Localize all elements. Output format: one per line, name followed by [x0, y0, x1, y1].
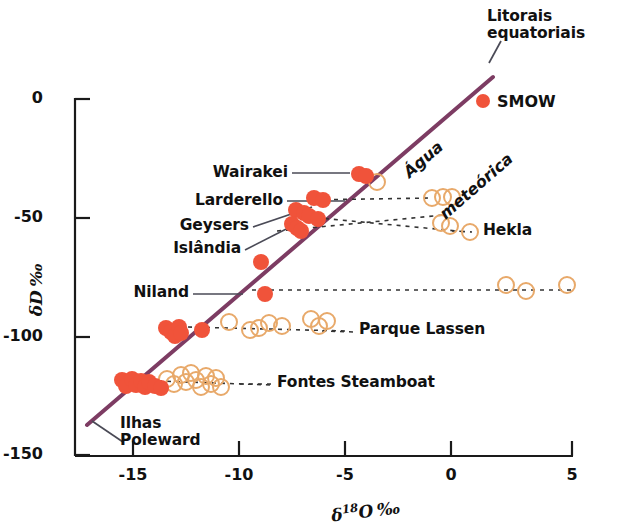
figure-root: 0 -50 -100 -150 -15 -10 -5 0 5 δD ‰ δ18O… [0, 0, 633, 527]
legend-smow-marker [476, 94, 490, 108]
marker-filled [293, 223, 309, 239]
leader-litorais [489, 41, 501, 63]
x-axis-title-isotope: 18 [341, 501, 359, 517]
label-connector-group [240, 231, 472, 384]
marker-filled [358, 168, 374, 184]
marker-filled [315, 192, 331, 208]
marker-open [518, 283, 534, 299]
connector-lassen-label [322, 331, 355, 332]
legend-smow-label: SMOW [497, 92, 556, 111]
y-tick-label-0: 0 [32, 88, 43, 107]
marker-filled [173, 325, 189, 341]
annotation-fontes-steamboat: Fontes Steamboat [277, 374, 435, 391]
x-tick-label-5: 5 [566, 465, 577, 484]
annotation-geysers: Geysers [180, 217, 249, 234]
annotation-agua-line2: meteórica [436, 150, 516, 223]
marker-filled [310, 211, 326, 227]
marker-filled [257, 286, 273, 302]
marker-filled [194, 322, 210, 338]
x-tick-label-0: 0 [445, 465, 456, 484]
annotation-litorais-equatoriais: Litorais equatoriais [487, 8, 585, 43]
leader-ilhas [92, 421, 123, 442]
annotation-parque-lassen: Parque Lassen [359, 321, 485, 338]
annotation-islandia: Islândia [173, 240, 241, 257]
chart-canvas [0, 0, 633, 527]
y-axis-title-delta: δD [26, 290, 46, 316]
annotation-niland: Niland [133, 284, 189, 301]
y-tick-label-minus50: -50 [14, 207, 43, 226]
marker-filled [253, 254, 269, 270]
annotation-agua-line1: Água [400, 108, 480, 181]
x-tick-label-minus15: -15 [119, 465, 148, 484]
y-tick-label-minus150: -150 [3, 444, 43, 463]
y-axis-title-permil: ‰ [26, 263, 46, 287]
y-axis-title: δD ‰ [6, 263, 66, 340]
marker-open [213, 379, 229, 395]
marker-filled [153, 380, 169, 396]
annotation-larderello: Larderello [195, 192, 283, 209]
x-tick-label-minus10: -10 [225, 465, 254, 484]
annotation-ilhas-poleward: Ilhas Poleward [120, 415, 201, 450]
x-axis-title-permil: ‰ [375, 497, 401, 520]
annotation-hekla: Hekla [483, 222, 532, 239]
annotation-wairakei: Wairakei [213, 164, 288, 181]
marker-open [221, 314, 237, 330]
